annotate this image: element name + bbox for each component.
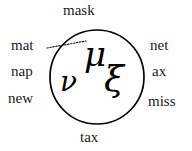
label-tax: tax <box>80 130 98 145</box>
label-miss: miss <box>148 94 176 109</box>
symbol-mu: μ <box>84 37 106 71</box>
symbol-nu: ν <box>60 68 77 96</box>
label-net: net <box>150 38 168 53</box>
label-nap: nap <box>11 64 33 79</box>
label-new: new <box>8 91 33 106</box>
label-mask: mask <box>63 3 95 18</box>
symbol-xi: ξ <box>104 61 124 97</box>
label-ax: ax <box>152 64 166 79</box>
venn-circle-figure: μ ν ξ mask mat nap new net ax miss tax <box>0 0 192 151</box>
label-mat: mat <box>11 38 34 53</box>
